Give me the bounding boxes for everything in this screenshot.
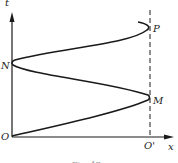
t-axis-label: t — [5, 0, 10, 8]
point-p-label: P — [152, 23, 160, 34]
point-n-label: N — [0, 60, 11, 71]
second-origin-label: O' — [144, 140, 155, 151]
x-axis-arrow-icon — [164, 135, 174, 140]
x-axis-label: x — [168, 141, 174, 152]
trajectory-curve — [12, 22, 150, 136]
origin-label: O — [1, 131, 9, 142]
figure-caption: Fig. 47 — [72, 160, 101, 163]
t-axis-arrow-icon — [10, 12, 15, 22]
trajectory-diagram: t x O O' N M P Fig. 47 — [0, 0, 178, 163]
point-m-label: M — [152, 95, 164, 106]
